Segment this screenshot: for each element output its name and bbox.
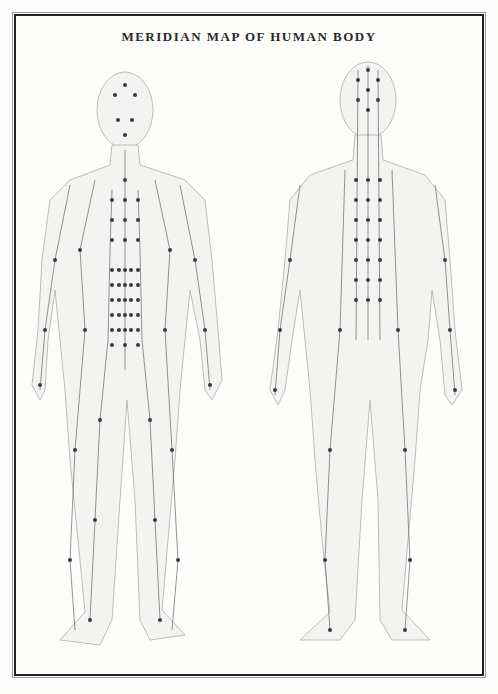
meridian-illustration: .body{fill:#f3f3f1;stroke:#bdbdbb;stroke… xyxy=(0,0,498,694)
back-figure xyxy=(270,62,462,640)
front-figure xyxy=(32,72,222,645)
